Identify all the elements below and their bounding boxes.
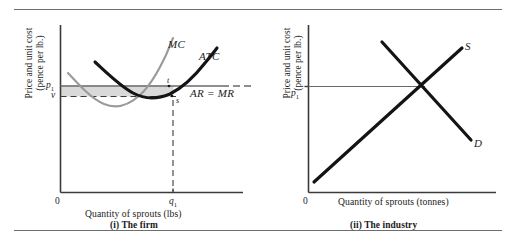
curve-label-atc-firm: ATC	[199, 50, 220, 62]
point-t-marker-firm	[168, 85, 171, 88]
panel-industry: Price and unit cost (pence per lb.) p1 S…	[258, 0, 516, 242]
point-label-s-firm: s	[176, 96, 179, 105]
curve-label-mc-firm: MC	[168, 38, 185, 50]
curve-label-s-industry: S	[465, 40, 471, 52]
curve-label-d-industry: D	[474, 137, 482, 149]
point-label-t-firm: t	[167, 76, 169, 85]
x-axis-label-firm: Quantity of sprouts (lbs)	[85, 208, 182, 219]
origin-label-firm: 0	[55, 196, 60, 206]
x-tick-label-q1-firm: q1	[169, 196, 177, 208]
curve-label-ar-mr-firm: AR = MR	[190, 87, 234, 99]
y-tick-label-p1-industry: p1	[291, 88, 299, 100]
economics-figure: Price and unit cost (pence per lb.)	[0, 0, 516, 242]
origin-label-industry: 0	[303, 196, 308, 206]
plot-firm	[0, 0, 258, 242]
demand-curve-industry	[382, 42, 471, 140]
panel-caption-firm: (i) The firm	[110, 220, 158, 230]
y-tick-label-v-firm: v	[51, 90, 55, 100]
panel-firm: Price and unit cost (pence per lb.)	[0, 0, 258, 242]
x-axis-label-industry: Quantity of sprouts (tonnes)	[338, 196, 449, 207]
panel-caption-industry: (ii) The industry	[350, 220, 417, 230]
supply-curve-industry	[314, 48, 462, 182]
point-s-marker-firm	[171, 95, 174, 98]
shaded-profit-band-firm	[61, 86, 174, 97]
